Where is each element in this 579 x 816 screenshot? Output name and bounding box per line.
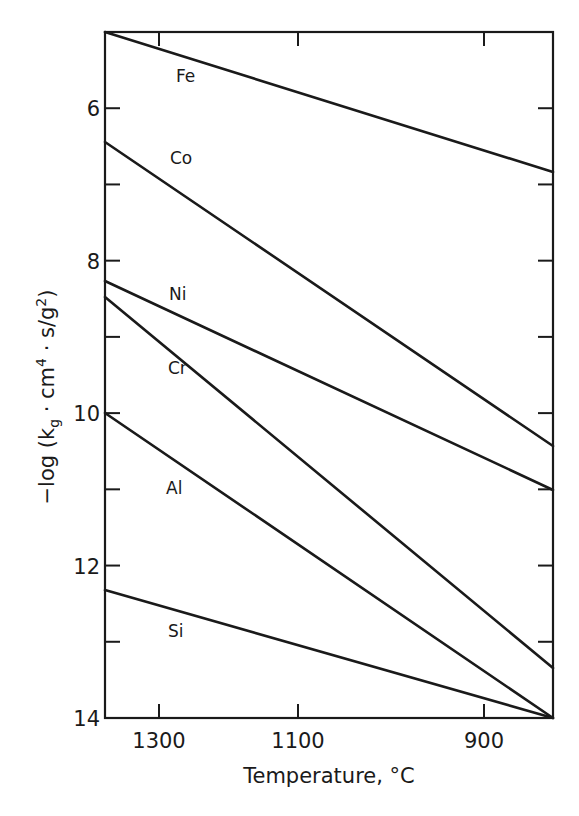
y-tick-label: 14: [73, 707, 100, 731]
x-tick-label: 900: [464, 729, 504, 753]
y-tick-label: 10: [73, 402, 100, 426]
series-label-fe: Fe: [176, 66, 195, 86]
series-line-si: [105, 590, 553, 718]
series-label-ni: Ni: [169, 284, 186, 304]
x-axis-title: Temperature, °C: [242, 764, 415, 788]
x-tick-label: 1300: [132, 729, 185, 753]
series-label-al: Al: [166, 478, 182, 498]
series-label-cr: Cr: [168, 358, 187, 378]
x-tick-label: 1100: [271, 729, 324, 753]
series-label-co: Co: [170, 148, 192, 168]
y-axis-title: −log (kg · cm4 · s/g2): [33, 290, 62, 505]
series-labels: FeCoNiCrAlSi: [166, 66, 195, 641]
y-axis-ticks: 68101214: [73, 97, 553, 731]
y-tick-label: 8: [87, 250, 100, 274]
series-label-si: Si: [168, 621, 184, 641]
y-tick-label: 6: [87, 97, 100, 121]
y-tick-label: 12: [73, 555, 100, 579]
oxidation-rate-chart: 68101214 13001100900 FeCoNiCrAlSi Temper…: [0, 0, 579, 816]
